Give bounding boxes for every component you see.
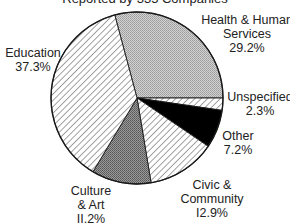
label-other: Other 7.2% — [218, 129, 258, 157]
label-civic: Civic & Community I2.9% — [172, 178, 252, 220]
label-health: Health & Human Services 29.2% — [192, 13, 290, 55]
label-culture: Culture & Art II.2% — [66, 184, 116, 224]
label-unspecified: Unspecified 2.3% — [225, 90, 290, 118]
label-education: Education 37.3% — [0, 46, 66, 74]
